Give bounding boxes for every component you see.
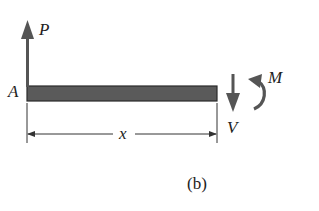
label-x: x [118,124,127,143]
moment-m-arrow-icon [248,74,264,109]
force-p-arrow-icon [21,20,34,87]
figure-caption: (b) [187,174,207,193]
shear-v-arrow-icon [226,74,240,112]
label-v: V [227,118,240,137]
beam [27,86,217,101]
label-a: A [7,82,19,101]
label-p: P [38,20,49,39]
free-body-diagram: A P M V x (b) [0,0,319,211]
label-m: M [267,68,283,87]
